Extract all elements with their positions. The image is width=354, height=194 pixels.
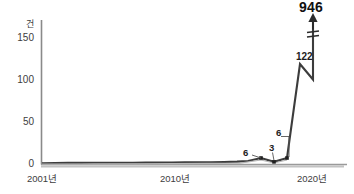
line-chart: 건 150 100 50 0 2001년 2010년 2020년 6 3 6 1…: [0, 0, 354, 194]
data-point-marker-2018: [272, 160, 276, 164]
axis-break-mark-upper: [307, 31, 319, 33]
y-tick-label-100: 100: [10, 75, 34, 85]
axis-break-mark-lower: [307, 36, 319, 38]
data-label-2018: 3: [269, 143, 274, 153]
y-axis-unit-label: 건: [10, 20, 34, 29]
y-tick-label-150: 150: [10, 33, 34, 43]
data-point-marker-2019: [285, 156, 289, 160]
leader-line-2018: [273, 153, 275, 161]
data-label-2020-peak: 122: [296, 52, 313, 62]
data-label-2017: 6: [243, 148, 248, 158]
y-tick-label-0: 0: [10, 159, 34, 169]
y-tick-label-50: 50: [10, 117, 34, 127]
x-tick-label-2001: 2001년: [27, 174, 57, 184]
chart-canvas: [0, 0, 354, 194]
data-label-offscale-946: 946: [299, 0, 323, 14]
data-label-2019: 6: [276, 128, 281, 138]
x-tick-label-2010: 2010년: [160, 174, 190, 184]
x-tick-label-2020: 2020년: [297, 174, 327, 184]
